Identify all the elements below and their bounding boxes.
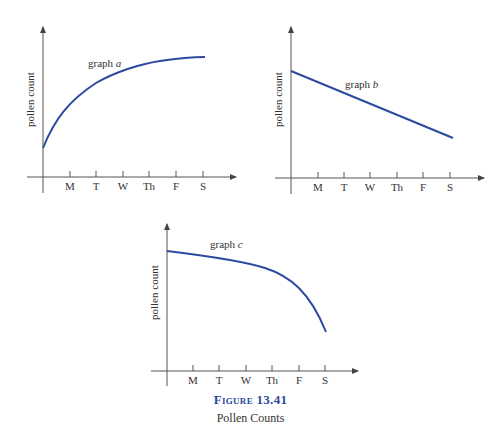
tick-label: M [313,181,323,193]
figure-canvas: M T W Th F S pollen count graph a M T W … [0,0,501,435]
tick-label: W [241,374,252,386]
tick-label: M [188,374,198,386]
x-ticks [70,171,203,177]
figure-subtitle: Pollen Counts [0,411,501,426]
graph-a: M T W Th F S pollen count graph a [24,27,236,193]
tick-label: Th [266,374,279,386]
tick-label: W [365,181,376,193]
tick-label: W [118,180,129,192]
tick-label: S [322,374,328,386]
tick-label: Th [143,180,156,192]
tick-label: S [447,181,453,193]
tick-label: T [93,180,100,192]
tick-label: T [216,374,223,386]
x-ticks [318,172,450,178]
y-axis-label: pollen count [272,72,284,127]
graph-label: graph b [345,78,379,90]
x-ticks [193,365,325,371]
tick-label: F [420,181,426,193]
figure-title: Figure 13.41 [0,392,501,408]
graph-b: M T W Th F S pollen count graph b [272,27,484,194]
curve-a [43,57,205,148]
graph-label: graph c [210,238,243,250]
tick-label: F [296,374,302,386]
curve-c [167,251,326,332]
graph-label: graph a [88,57,122,69]
y-axis-label: pollen count [148,265,160,320]
tick-label: F [173,180,179,192]
tick-label: M [65,180,75,192]
graph-c: M T W Th F S pollen count graph c [148,224,358,386]
tick-label: T [341,181,348,193]
tick-label: Th [391,181,404,193]
y-axis-label: pollen count [24,72,36,127]
tick-label: S [200,180,206,192]
